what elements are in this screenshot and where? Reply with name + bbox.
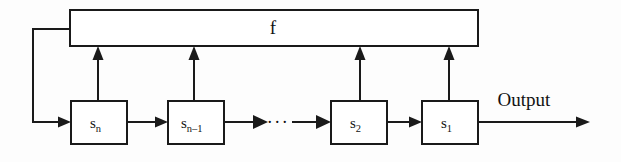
shift-arrowhead-3 xyxy=(316,115,331,129)
tap-arrowhead-sn xyxy=(93,46,104,60)
stage-box-s2: s2 xyxy=(331,101,387,144)
feedback-function-block: f xyxy=(70,10,478,46)
tap-arrowhead-sn-1 xyxy=(189,46,200,60)
diagram-canvas: f sn xyxy=(0,0,621,162)
shift-arrow-ellipsis-to-s2 xyxy=(292,115,331,129)
shift-arrowhead-2b xyxy=(253,115,268,129)
tap-arrow-s1 xyxy=(444,46,455,101)
output-arrowhead xyxy=(576,117,590,128)
stage-box-sn: sn xyxy=(71,101,127,144)
tap-arrow-sn xyxy=(93,46,104,101)
stage-sn-1-subscript: n–1 xyxy=(187,123,203,134)
feedback-wire-arrowhead xyxy=(58,117,71,128)
stage-box-s1: s1 xyxy=(422,101,478,144)
output-arrow xyxy=(478,117,590,128)
shift-arrow-sn-to-sn-1 xyxy=(127,117,168,128)
feedback-block-label: f xyxy=(270,17,277,38)
tap-arrow-s2 xyxy=(355,46,366,101)
shift-arrow-s2-to-s1 xyxy=(387,117,422,128)
tap-arrowhead-s2 xyxy=(355,46,366,60)
stage-s2-subscript: 2 xyxy=(356,123,361,134)
shift-arrowhead-4 xyxy=(409,117,422,128)
feedback-shift-register-diagram: f sn xyxy=(0,0,621,162)
tap-arrowhead-s1 xyxy=(444,46,455,60)
output-label: Output xyxy=(498,89,552,110)
shift-arrow-sn-1-to-ellipsis xyxy=(224,115,268,129)
feedback-wire-path xyxy=(33,29,70,122)
stage-sn-subscript: n xyxy=(96,123,102,134)
ellipsis-label: ··· xyxy=(267,112,289,132)
stage-s1-subscript: 1 xyxy=(447,123,452,134)
shift-arrowhead-1 xyxy=(155,117,168,128)
stage-box-sn-1: sn–1 xyxy=(168,101,224,144)
tap-arrow-sn-1 xyxy=(189,46,200,101)
feedback-wire xyxy=(33,29,71,128)
